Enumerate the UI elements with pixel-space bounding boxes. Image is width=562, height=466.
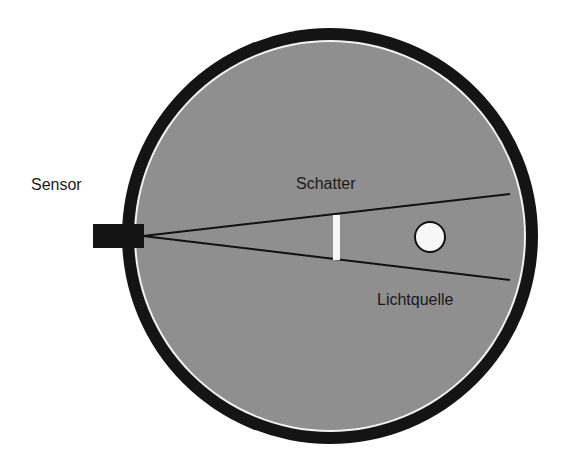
label-light-source: Lichtquelle [377, 291, 454, 308]
disc-fill [136, 42, 524, 430]
sensor-diagram: Sensor Schatter Lichtquelle [0, 0, 562, 466]
label-sensor: Sensor [31, 176, 82, 193]
shadow-bar [333, 215, 340, 260]
sensor-block [93, 224, 144, 248]
label-shadow: Schatter [296, 175, 356, 192]
light-source-circle [415, 222, 445, 252]
